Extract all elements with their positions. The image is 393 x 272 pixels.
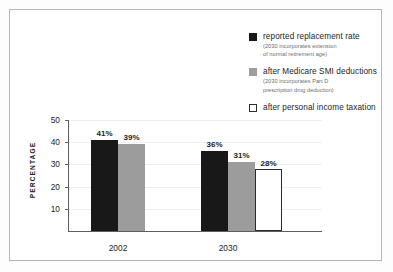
legend-note-reported-replacement-rate-line2: of normal retirement age) [263, 51, 389, 58]
chart-figure: reported replacement rate (2030 incorpor… [0, 0, 393, 272]
y-tick-mark-20: 20 [65, 187, 68, 188]
x-axis-label-2002: 2002 [109, 243, 128, 253]
bar-2030-after-personal-income-taxation: 28% [255, 169, 282, 231]
legend-note-after-medicare-smi-line1: (2030 incorporates Part D [263, 78, 389, 85]
y-axis-line [68, 120, 69, 232]
legend-note-reported-replacement-rate-line1: (2030 incorporates extension [263, 43, 389, 50]
y-tick-mark-30: 30 [65, 164, 68, 165]
legend-label-after-medicare-smi-deductions: after Medicare SMI deductions [263, 67, 389, 77]
bar-2002-after-medicare-smi-deductions: 39% [118, 144, 145, 231]
chart-legend: reported replacement rate (2030 incorpor… [249, 32, 389, 122]
bar-value-2002-reported-replacement-rate: 41% [96, 129, 112, 138]
y-tick-label-20: 20 [51, 182, 60, 192]
legend-note-after-medicare-smi-line2: prescription drug deduction) [263, 87, 389, 94]
y-axis-title: PERCENTAGE [29, 134, 36, 206]
y-tick-label-30: 30 [51, 159, 60, 169]
legend-label-after-personal-income-taxation: after personal income taxation [263, 103, 389, 113]
chart-axes: 50 40 30 20 10 41% 39% [68, 120, 322, 232]
legend-label-reported-replacement-rate: reported replacement rate [263, 32, 389, 42]
y-tick-label-50: 50 [51, 115, 60, 125]
legend-swatch-white-icon [249, 104, 257, 112]
bar-2030-reported-replacement-rate: 36% [201, 151, 228, 231]
bar-2030-after-medicare-smi-deductions: 31% [228, 162, 255, 231]
legend-item-reported-replacement-rate: reported replacement rate (2030 incorpor… [249, 32, 389, 58]
x-axis-line [68, 231, 322, 232]
y-tick-label-10: 10 [51, 204, 60, 214]
legend-item-after-medicare-smi-deductions: after Medicare SMI deductions (2030 inco… [249, 67, 389, 93]
gridline-50 [69, 120, 322, 121]
y-tick-mark-50: 50 [65, 120, 68, 121]
bar-value-2002-after-medicare-smi-deductions: 39% [123, 133, 139, 142]
legend-item-after-personal-income-taxation: after personal income taxation [249, 103, 389, 113]
x-axis-label-2030: 2030 [219, 243, 238, 253]
legend-swatch-dark-icon [249, 33, 257, 41]
bar-value-2030-reported-replacement-rate: 36% [206, 140, 222, 149]
chart-frame-border: reported replacement rate (2030 incorpor… [9, 9, 382, 261]
y-tick-mark-10: 10 [65, 209, 68, 210]
legend-swatch-gray-icon [249, 68, 257, 76]
chart-plot-area: PERCENTAGE 50 40 30 [32, 120, 322, 250]
y-tick-label-40: 40 [51, 137, 60, 147]
bar-value-2030-after-personal-income-taxation: 28% [260, 159, 276, 168]
bar-value-2030-after-medicare-smi-deductions: 31% [233, 151, 249, 160]
bar-2002-reported-replacement-rate: 41% [91, 140, 118, 231]
y-tick-mark-40: 40 [65, 142, 68, 143]
